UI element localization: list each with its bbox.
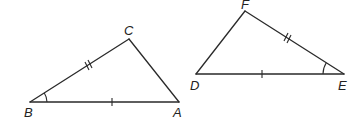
angle-arc-b bbox=[44, 93, 47, 102]
vertex-label-d: D bbox=[190, 79, 199, 92]
vertex-label-a: A bbox=[173, 106, 182, 119]
side-bc bbox=[30, 39, 129, 102]
triangle-def bbox=[196, 11, 344, 78]
congruent-triangles-figure: B A C D E F bbox=[0, 0, 364, 124]
angle-arc-e bbox=[323, 63, 326, 74]
double-tick-fe-2 bbox=[287, 35, 291, 43]
vertex-label-e: E bbox=[338, 79, 347, 92]
triangle-abc bbox=[30, 39, 179, 106]
triangles-drawing bbox=[0, 0, 364, 124]
side-fe bbox=[245, 11, 344, 74]
vertex-label-b: B bbox=[24, 106, 33, 119]
vertex-label-f: F bbox=[241, 0, 249, 11]
side-df bbox=[196, 11, 245, 74]
vertex-label-c: C bbox=[124, 24, 133, 37]
side-ca bbox=[129, 39, 179, 102]
double-tick-fe-1 bbox=[284, 33, 288, 41]
